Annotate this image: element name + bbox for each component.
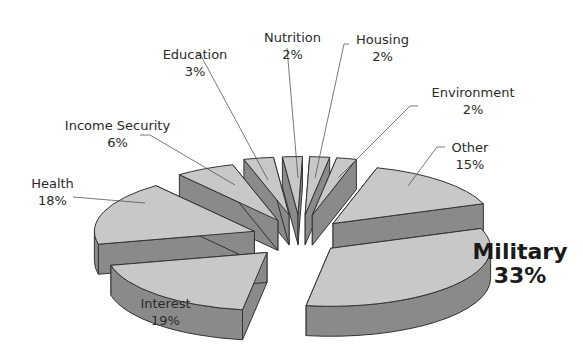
label-military: Military 33% (455, 240, 583, 288)
label-income-security-value: 6% (50, 134, 185, 151)
label-education-name: Education (150, 46, 240, 63)
label-nutrition-name: Nutrition (250, 29, 335, 46)
label-income-security: Income Security 6% (50, 117, 185, 151)
label-income-security-name: Income Security (50, 117, 185, 134)
label-other-value: 15% (440, 156, 500, 173)
label-interest-name: Interest (128, 295, 203, 312)
label-nutrition: Nutrition 2% (250, 29, 335, 63)
label-education-value: 3% (150, 63, 240, 80)
label-environment: Environment 2% (418, 84, 528, 118)
label-interest-value: 19% (128, 312, 203, 329)
label-housing-name: Housing (345, 31, 420, 48)
label-military-name: Military (455, 240, 583, 264)
label-health: Health 18% (20, 175, 85, 209)
label-environment-value: 2% (418, 101, 528, 118)
label-housing: Housing 2% (345, 31, 420, 65)
label-education: Education 3% (150, 46, 240, 80)
label-interest: Interest 19% (128, 295, 203, 329)
label-military-value: 33% (455, 264, 583, 288)
label-health-value: 18% (20, 192, 85, 209)
label-other: Other 15% (440, 139, 500, 173)
label-environment-name: Environment (418, 84, 528, 101)
label-nutrition-value: 2% (250, 46, 335, 63)
label-housing-value: 2% (345, 48, 420, 65)
label-health-name: Health (20, 175, 85, 192)
label-other-name: Other (440, 139, 500, 156)
